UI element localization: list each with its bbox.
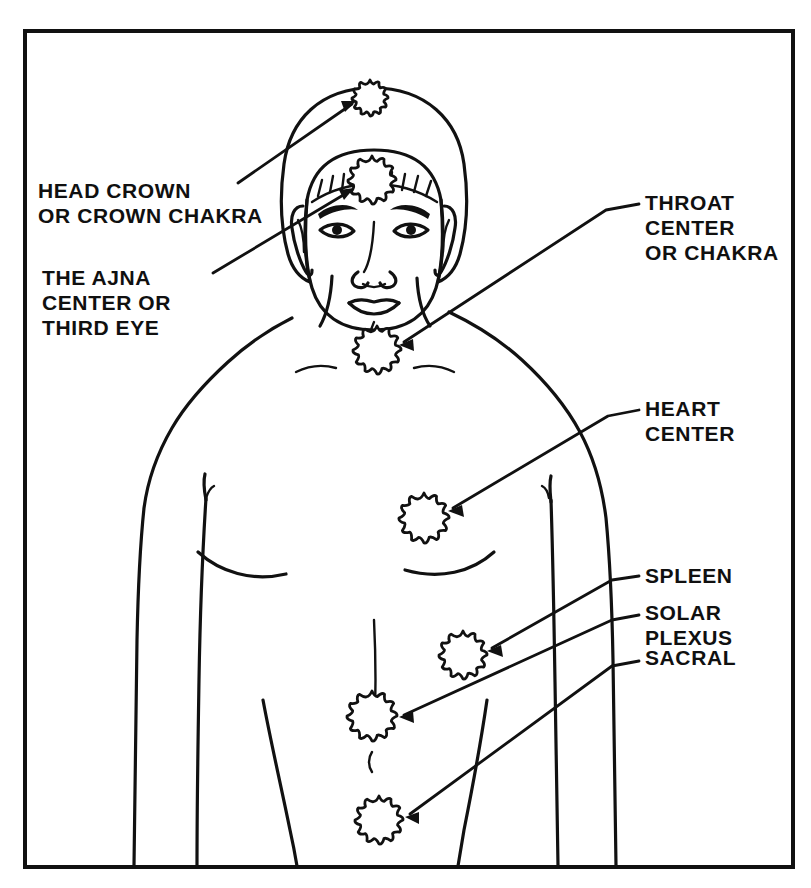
label-line: THE AJNA [42, 265, 171, 290]
label-heart-center: HEARTCENTER [645, 396, 735, 446]
leader-heart [453, 410, 639, 508]
label-line: SPLEEN [645, 563, 733, 588]
label-throat-center: THROATCENTEROR CHAKRA [645, 190, 779, 265]
leader-sacral [410, 661, 639, 814]
label-head-crown: HEAD CROWNOR CROWN CHAKRA [38, 178, 263, 228]
leader-spleen [492, 576, 639, 648]
leader-lines [213, 101, 639, 824]
chakra-rosette-icon [353, 326, 401, 374]
label-sacral-center: SACRAL [645, 645, 736, 670]
label-line: THROAT [645, 190, 779, 215]
leader-crown [238, 104, 352, 183]
label-line: OR CROWN CHAKRA [38, 203, 263, 228]
label-line: OR CHAKRA [645, 240, 779, 265]
diagram-page: .ink { fill:none; stroke:#111111; stroke… [0, 0, 811, 888]
label-line: THIRD EYE [42, 315, 171, 340]
label-ajna-third-eye: THE AJNACENTER ORTHIRD EYE [42, 265, 171, 340]
label-line: CENTER OR [42, 290, 171, 315]
label-line: CENTER [645, 421, 735, 446]
label-solar-plexus-center: SOLARPLEXUS [645, 600, 733, 650]
chakra-rosette-icon [348, 156, 396, 204]
label-line: HEAD CROWN [38, 178, 263, 203]
label-spleen-center: SPLEEN [645, 563, 733, 588]
chakra-rosette-icon [352, 80, 388, 116]
label-line: HEART [645, 396, 735, 421]
label-line: SACRAL [645, 645, 736, 670]
label-line: CENTER [645, 215, 779, 240]
chakra-rosette-icon [399, 493, 449, 543]
label-line: SOLAR [645, 600, 733, 625]
chakra-rosette-icon [355, 796, 403, 844]
chakra-rosette-icon [347, 691, 397, 741]
chakra-rosette-icon [439, 631, 487, 679]
